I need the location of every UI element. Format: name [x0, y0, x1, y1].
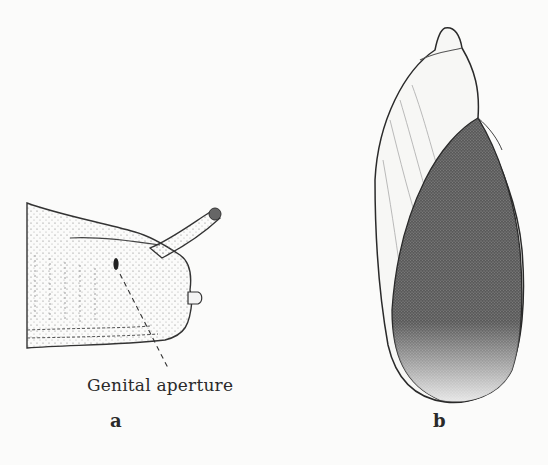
genital-aperture-label: Genital aperture — [87, 375, 233, 395]
panel-label-b: b — [433, 410, 446, 431]
snail-shell-illustration — [375, 28, 524, 403]
genital-aperture-mark — [113, 258, 118, 270]
slug-head-illustration — [27, 203, 221, 368]
figure-canvas — [0, 0, 548, 465]
panel-label-a: a — [110, 410, 122, 431]
